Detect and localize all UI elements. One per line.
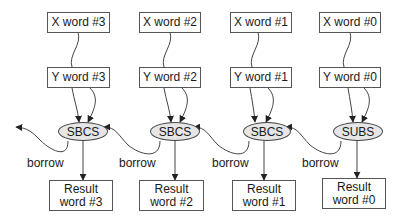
y-word-1-label: Y word #1 <box>234 71 288 84</box>
y-word-1-box: Y word #1 <box>230 67 292 88</box>
x-word-3-label: X word #3 <box>51 16 105 29</box>
y-word-3-box: Y word #3 <box>47 67 110 88</box>
result-word-3-box: Result word #3 <box>49 180 113 211</box>
result-3-line2: word #3 <box>60 196 103 209</box>
result-3-line1: Result <box>64 183 98 196</box>
x-word-0-label: X word #0 <box>323 16 377 29</box>
borrow-label-3: borrow <box>27 156 64 170</box>
result-word-2-box: Result word #2 <box>139 180 204 211</box>
op-node-3: SBCS <box>58 122 108 141</box>
x-word-3-box: X word #3 <box>47 12 110 33</box>
y-word-2-box: Y word #2 <box>139 67 201 88</box>
x-word-1-box: X word #1 <box>230 12 292 33</box>
y-word-3-label: Y word #3 <box>52 71 106 84</box>
x-word-0-box: X word #0 <box>319 12 381 33</box>
op-node-1: SBCS <box>243 122 291 141</box>
result-0-line1: Result <box>337 181 371 194</box>
result-word-1-box: Result word #1 <box>232 180 296 211</box>
x-word-2-box: X word #2 <box>139 12 201 33</box>
op-label-2: SBCS <box>159 125 192 139</box>
op-node-0: SUBS <box>333 122 383 141</box>
result-word-0-box: Result word #0 <box>322 178 386 209</box>
result-0-line2: word #0 <box>333 194 376 207</box>
x-word-2-label: X word #2 <box>143 16 197 29</box>
borrow-label-1: borrow <box>212 156 249 170</box>
result-1-line2: word #1 <box>243 196 286 209</box>
x-word-1-label: X word #1 <box>234 16 288 29</box>
result-2-line1: Result <box>154 183 188 196</box>
op-node-2: SBCS <box>150 122 200 141</box>
y-word-0-box: Y word #0 <box>319 67 381 88</box>
op-label-0: SUBS <box>342 125 375 139</box>
result-2-line2: word #2 <box>150 196 193 209</box>
y-word-0-label: Y word #0 <box>323 71 377 84</box>
op-label-3: SBCS <box>67 125 100 139</box>
borrow-label-2: borrow <box>119 156 156 170</box>
result-1-line1: Result <box>247 183 281 196</box>
y-word-2-label: Y word #2 <box>143 71 197 84</box>
borrow-label-0: borrow <box>302 156 339 170</box>
op-label-1: SBCS <box>251 125 284 139</box>
